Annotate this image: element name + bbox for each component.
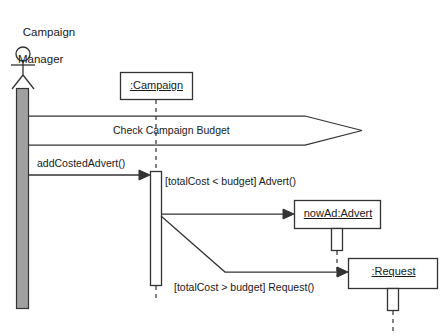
advert-activation-bar <box>332 229 343 251</box>
add-costed-advert-label: addCostedAdvert() <box>37 157 125 169</box>
actor-name-line1: Campaign <box>23 26 75 38</box>
request-create-arrow-head <box>337 267 348 277</box>
request-create-label: [totalCost > budget] Request() <box>174 281 314 293</box>
check-campaign-budget-label: Check Campaign Budget <box>113 124 230 136</box>
advert-object-label: nowAd:Advert <box>295 207 381 220</box>
sequence-diagram-canvas: Campaign Manager :Campaign nowAd:Advert … <box>0 0 442 336</box>
actor-name: Campaign Manager <box>10 12 75 93</box>
request-object-label: :Request <box>349 265 438 278</box>
advert-create-arrow-head <box>283 209 294 219</box>
actor-activation-bar <box>17 89 29 309</box>
campaign-activation-bar <box>151 172 162 286</box>
add-costed-advert-arrow-head <box>139 170 150 180</box>
actor-name-line2: Manager <box>10 53 75 67</box>
campaign-object-label: :Campaign <box>120 79 193 92</box>
advert-create-label: [totalCost < budget] Advert() <box>165 175 296 187</box>
request-activation-bar <box>388 289 399 311</box>
